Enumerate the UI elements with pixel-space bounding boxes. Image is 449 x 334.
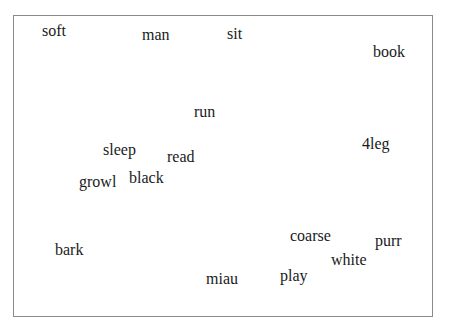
word-play: play: [280, 268, 308, 284]
word-bark: bark: [55, 242, 83, 258]
word-black: black: [129, 170, 164, 186]
word-read: read: [167, 149, 195, 165]
word-white: white: [331, 252, 367, 268]
word-sleep: sleep: [103, 142, 136, 158]
word-man: man: [142, 27, 170, 43]
word-growl: growl: [79, 174, 116, 190]
word-miau: miau: [206, 271, 238, 287]
word-4leg: 4leg: [362, 136, 390, 152]
word-soft: soft: [42, 23, 66, 39]
word-book: book: [373, 44, 405, 60]
word-sit: sit: [227, 26, 242, 42]
word-purr: purr: [375, 233, 402, 249]
word-coarse: coarse: [290, 228, 331, 244]
word-run: run: [194, 104, 215, 120]
